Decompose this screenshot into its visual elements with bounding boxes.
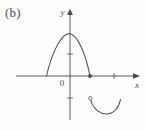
closed-endpoint-marker xyxy=(88,74,92,78)
y-axis-arrowhead xyxy=(67,9,73,16)
figure-panel: (b) 0 x y xyxy=(0,0,145,130)
x-axis-label: x xyxy=(134,80,139,90)
plot-area: 0 x y xyxy=(0,0,145,130)
origin-label: 0 xyxy=(60,78,65,88)
open-endpoint-marker xyxy=(89,97,92,100)
lower-arc-curve xyxy=(91,99,121,114)
parabola-curve xyxy=(47,34,91,77)
x-axis-arrowhead xyxy=(133,73,140,79)
y-axis-label: y xyxy=(60,7,65,17)
